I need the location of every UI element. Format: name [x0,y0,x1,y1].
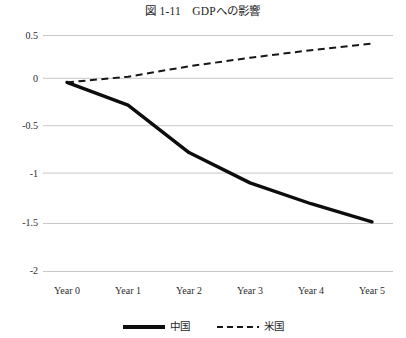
legend-swatch-dashed-icon [216,322,260,332]
x-tick-label: Year 3 [220,286,280,296]
x-tick-label: Year 5 [342,286,402,296]
x-axis-tick-labels: Year 0 Year 1 Year 2 Year 3 Year 4 Year … [43,286,393,302]
plot-canvas [43,35,393,272]
y-axis-tick-labels: 0.5 0 -0.5 -1 -1.5 -2 [0,0,38,338]
x-tick-label: Year 2 [159,286,219,296]
x-tick-label: Year 0 [37,286,97,296]
y-tick-label: -0.5 [8,121,38,131]
chart-figure: 図 1-11 GDPへの影響 0.5 0 -0.5 -1 -1.5 -2 Yea… [0,0,406,338]
y-tick-label: 0 [8,74,38,84]
legend-label-china: 中国 [170,322,190,333]
legend-entry-china[interactable]: 中国 [122,322,190,333]
legend-label-usa: 米国 [264,322,284,333]
legend-entry-usa[interactable]: 米国 [216,322,284,333]
x-tick-label: Year 4 [281,286,341,296]
y-tick-label: -1.5 [8,218,38,228]
gridlines [43,36,393,272]
series-line-china [67,82,372,221]
y-tick-label: -1 [8,169,38,179]
y-tick-label: -2 [8,266,38,276]
x-tick-label: Year 1 [98,286,158,296]
series-line-usa [67,44,372,83]
chart-title: 図 1-11 GDPへの影響 [0,2,406,18]
legend-swatch-solid-icon [122,322,166,332]
y-tick-label: 0.5 [8,31,38,41]
chart-legend: 中国 米国 [0,318,406,336]
plot-area [43,35,393,272]
